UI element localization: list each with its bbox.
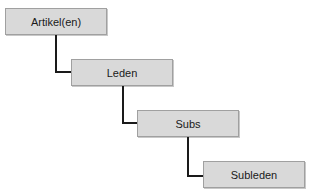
connector-horizontal <box>187 175 203 177</box>
node-subs: Subs <box>137 110 239 137</box>
node-label: Subleden <box>231 169 278 181</box>
connector-horizontal <box>55 71 71 73</box>
node-label: Leden <box>107 67 138 79</box>
connector-vertical <box>122 86 124 123</box>
connector-horizontal <box>122 122 137 124</box>
node-artikelen: Artikel(en) <box>5 8 107 35</box>
node-subleden: Subleden <box>203 161 305 188</box>
connector-vertical <box>55 35 57 72</box>
node-label: Artikel(en) <box>31 16 81 28</box>
node-leden: Leden <box>71 59 173 86</box>
connector-vertical <box>187 137 189 176</box>
node-label: Subs <box>175 118 200 130</box>
